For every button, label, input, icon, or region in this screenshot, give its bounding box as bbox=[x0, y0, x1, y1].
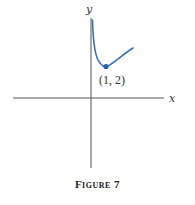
x-axis-label: x bbox=[169, 92, 176, 105]
minimum-point-label: (1, 2) bbox=[99, 73, 125, 87]
minimum-point-marker bbox=[103, 64, 108, 69]
curve bbox=[93, 20, 134, 67]
figure-plot: y x (1, 2) bbox=[0, 0, 195, 205]
y-axis-label: y bbox=[85, 3, 93, 16]
figure-caption: Figure 7 bbox=[0, 178, 195, 190]
